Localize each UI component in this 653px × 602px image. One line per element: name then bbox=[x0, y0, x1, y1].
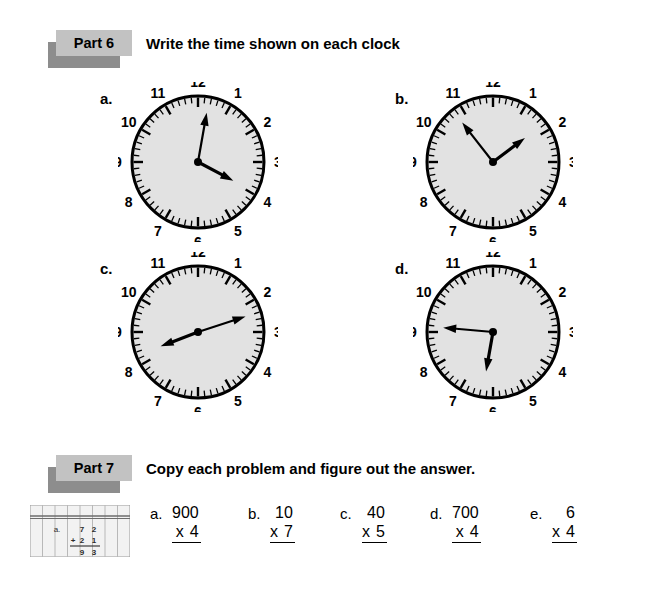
problem-letter: a. bbox=[150, 505, 163, 522]
problem-operand-bottom-row: x4 bbox=[552, 522, 577, 543]
clock-numeral-5: 5 bbox=[529, 223, 537, 239]
clock-numeral-7: 7 bbox=[449, 393, 457, 409]
clock-numeral-5: 5 bbox=[234, 393, 242, 409]
problem-operand-bottom: 4 bbox=[566, 523, 575, 540]
clock-item-c: c.121234567891011 bbox=[100, 252, 290, 427]
clock-numeral-10: 10 bbox=[416, 114, 432, 130]
part-7-tag: Part 7 bbox=[56, 455, 132, 481]
clock-label-d: d. bbox=[395, 260, 408, 277]
problem-operator: x bbox=[456, 522, 470, 541]
clock-face-d: 121234567891011 bbox=[413, 252, 573, 412]
problem-operand-bottom: 4 bbox=[470, 523, 479, 540]
clock-numeral-4: 4 bbox=[558, 194, 566, 210]
clock-numeral-8: 8 bbox=[125, 364, 133, 380]
problem-operand-top: 40 bbox=[362, 503, 387, 522]
problem-stack: 900x4 bbox=[172, 503, 201, 543]
clock-numeral-12: 12 bbox=[190, 82, 206, 90]
clock-numeral-6: 6 bbox=[489, 234, 497, 242]
clock-center-hub bbox=[194, 158, 202, 166]
part-7-header: Part 7 Copy each problem and figure out … bbox=[48, 455, 608, 481]
clock-numeral-9: 9 bbox=[413, 154, 417, 170]
clock-numeral-10: 10 bbox=[121, 284, 137, 300]
clock-numeral-2: 2 bbox=[558, 284, 566, 300]
problem-operator: x bbox=[362, 522, 376, 541]
problem-operator: x bbox=[176, 522, 190, 541]
clock-numeral-11: 11 bbox=[151, 85, 166, 101]
clock-numeral-5: 5 bbox=[234, 223, 242, 239]
clock-center-hub bbox=[489, 328, 497, 336]
clock-numeral-12: 12 bbox=[485, 82, 501, 90]
problem-stack: 700x4 bbox=[452, 503, 481, 543]
clock-numeral-3: 3 bbox=[274, 154, 278, 170]
clock-label-b: b. bbox=[395, 90, 408, 107]
problem-operand-top: 10 bbox=[270, 503, 295, 522]
clock-numeral-11: 11 bbox=[151, 255, 166, 271]
problem-operator: x bbox=[270, 522, 284, 541]
problem-operand-bottom-row: x5 bbox=[362, 522, 387, 543]
clock-numeral-7: 7 bbox=[449, 223, 457, 239]
clock-numeral-7: 7 bbox=[154, 223, 162, 239]
clock-numeral-2: 2 bbox=[263, 114, 271, 130]
clock-numeral-12: 12 bbox=[485, 252, 501, 260]
clock-numeral-1: 1 bbox=[529, 255, 537, 271]
part-7-title: Copy each problem and figure out the ans… bbox=[146, 455, 475, 481]
clock-item-b: b.121234567891011 bbox=[395, 82, 585, 257]
clock-face-a: 121234567891011 bbox=[118, 82, 278, 242]
clock-numeral-3: 3 bbox=[569, 154, 573, 170]
clock-numeral-11: 11 bbox=[446, 255, 461, 271]
clock-numeral-9: 9 bbox=[413, 324, 417, 340]
clock-numeral-11: 11 bbox=[446, 85, 461, 101]
problem-operand-top: 700 bbox=[452, 503, 481, 522]
clock-numeral-3: 3 bbox=[274, 324, 278, 340]
problem-stack: 6x4 bbox=[552, 503, 577, 543]
clock-numeral-12: 12 bbox=[190, 252, 206, 260]
clock-numeral-4: 4 bbox=[263, 364, 271, 380]
clock-numeral-1: 1 bbox=[234, 85, 242, 101]
clock-numeral-1: 1 bbox=[529, 85, 537, 101]
clock-label-a: a. bbox=[100, 90, 113, 107]
problem-stack: 40x5 bbox=[362, 503, 387, 543]
clock-numeral-1: 1 bbox=[234, 255, 242, 271]
clock-numeral-8: 8 bbox=[420, 194, 428, 210]
clock-numeral-2: 2 bbox=[263, 284, 271, 300]
clock-numeral-8: 8 bbox=[125, 194, 133, 210]
clock-label-c: c. bbox=[100, 260, 113, 277]
clock-item-d: d.121234567891011 bbox=[395, 252, 585, 427]
clock-numeral-6: 6 bbox=[194, 234, 202, 242]
part-6-tag: Part 6 bbox=[56, 30, 132, 56]
problem-letter: e. bbox=[530, 505, 543, 522]
problem-operand-bottom-row: x7 bbox=[270, 522, 295, 543]
problem-operand-bottom-row: x4 bbox=[172, 522, 201, 543]
part-6-title: Write the time shown on each clock bbox=[146, 30, 400, 56]
clock-numeral-3: 3 bbox=[569, 324, 573, 340]
problem-operand-bottom: 5 bbox=[376, 523, 385, 540]
clock-face-b: 121234567891011 bbox=[413, 82, 573, 242]
clock-numeral-9: 9 bbox=[118, 154, 122, 170]
clock-face-c: 121234567891011 bbox=[118, 252, 278, 412]
problem-operand-bottom: 7 bbox=[284, 523, 293, 540]
clock-numeral-5: 5 bbox=[529, 393, 537, 409]
problem-operand-top: 900 bbox=[172, 503, 201, 522]
clock-numeral-10: 10 bbox=[121, 114, 137, 130]
clock-numeral-4: 4 bbox=[263, 194, 271, 210]
part-6-header: Part 6 Write the time shown on each cloc… bbox=[48, 30, 608, 56]
clock-numeral-10: 10 bbox=[416, 284, 432, 300]
problem-row: a.900x4b.10x7c.40x5d.700x4e.6x4 bbox=[0, 503, 653, 563]
clock-numeral-7: 7 bbox=[154, 393, 162, 409]
problem-operand-top: 6 bbox=[552, 503, 577, 522]
problem-letter: c. bbox=[340, 505, 352, 522]
clock-item-a: a.121234567891011 bbox=[100, 82, 290, 257]
problem-operand-bottom: 4 bbox=[190, 523, 199, 540]
clock-numeral-6: 6 bbox=[489, 404, 497, 412]
clock-numeral-6: 6 bbox=[194, 404, 202, 412]
clock-center-hub bbox=[489, 158, 497, 166]
problem-letter: d. bbox=[430, 505, 443, 522]
problem-operand-bottom-row: x4 bbox=[452, 522, 481, 543]
problem-operator: x bbox=[552, 522, 566, 541]
clock-center-hub bbox=[194, 328, 202, 336]
clock-numeral-8: 8 bbox=[420, 364, 428, 380]
clock-numeral-2: 2 bbox=[558, 114, 566, 130]
problem-letter: b. bbox=[248, 505, 261, 522]
clock-numeral-4: 4 bbox=[558, 364, 566, 380]
problem-stack: 10x7 bbox=[270, 503, 295, 543]
